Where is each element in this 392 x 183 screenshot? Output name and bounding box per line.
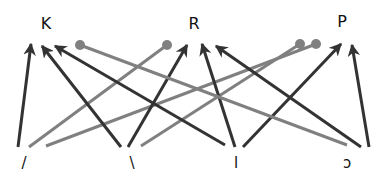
top-node-label-P: P: [337, 12, 347, 31]
bipartite-diagram: KRP /\lɔ: [0, 0, 392, 183]
dot-endpoint-icon: [295, 39, 305, 49]
bottom-node-label-b2: \: [129, 154, 135, 172]
edge-b3-to-P: [243, 44, 341, 147]
edges-group: [18, 39, 369, 147]
dot-endpoint-icon: [311, 39, 321, 49]
bottom-node-label-b4: ɔ: [343, 154, 351, 172]
edge-b2-to-P: [141, 44, 300, 146]
edge-b4-to-R: [216, 46, 361, 147]
top-node-label-K: K: [41, 14, 52, 33]
dot-endpoint-icon: [162, 40, 172, 50]
bottom-node-label-b1: /: [21, 154, 27, 172]
bottom-node-labels: /\lɔ: [21, 154, 351, 172]
dot-endpoint-icon: [75, 40, 85, 50]
bottom-node-label-b3: l: [234, 154, 238, 172]
top-node-label-R: R: [188, 14, 199, 33]
edge-b4-to-P: [352, 45, 369, 147]
top-node-labels: KRP: [41, 12, 347, 33]
edge-b1-to-K: [18, 44, 31, 147]
edge-b1-to-R: [29, 45, 167, 147]
edge-b4-to-K: [80, 45, 347, 145]
